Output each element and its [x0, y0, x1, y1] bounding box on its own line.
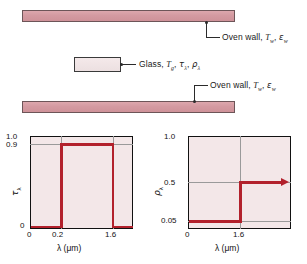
transmissivity-segment-low-right [112, 226, 133, 229]
leader-dot-bottom [193, 100, 196, 103]
transmissivity-xtick-0.2: 0.2 [52, 230, 63, 239]
transmissivity-plot-frame [30, 136, 133, 229]
transmissivity-xtick-1.6: 1.6 [105, 230, 116, 239]
leader-dot-top [205, 21, 208, 24]
oven-wall-bottom-temp-sub: w [258, 86, 262, 92]
oven-wall-top-temp-sub: w [270, 38, 274, 44]
leader-line-glass [121, 64, 136, 65]
transmissivity-xtick-0: 0 [27, 230, 31, 239]
transmissivity-faller-at-1.6 [112, 143, 115, 228]
glass-temp-sub: g [171, 65, 174, 71]
leader-line-bottom-horizontal [194, 85, 208, 86]
reflectivity-xtick-0: 0 [185, 230, 189, 239]
leader-dot-glass [120, 63, 123, 66]
glass-label-text: Glass, [139, 59, 164, 69]
reflectivity-segment-0.05 [189, 220, 242, 223]
reflectivity-xaxis-title: λ (μm) [215, 243, 239, 253]
glass-sheet [74, 57, 121, 72]
transmissivity-segment-low-left [31, 226, 62, 229]
transmissivity-yaxis-title: τλ [10, 188, 22, 196]
oven-wall-top [22, 10, 235, 22]
reflectivity-yaxis-sub: λ [158, 187, 164, 190]
transmissivity-xaxis-title: λ (μm) [57, 243, 81, 253]
oven-wall-top-emissivity-sub: w [284, 38, 288, 44]
transmissivity-ytick-0.9: 0.9 [6, 140, 17, 149]
reflectivity-ytick-0.5: 0.5 [164, 178, 175, 187]
reflectivity-yaxis-title: ρλ [152, 187, 164, 196]
glass-label: Glass, Tg, τλ, ρλ [139, 59, 200, 71]
reflectivity-arrowhead [281, 178, 289, 186]
reflectivity-segment-0.5 [239, 181, 282, 184]
oven-wall-bottom-label: Oven wall, Tw, εw [210, 80, 276, 92]
reflectivity-xtick-1.6: 1.6 [233, 230, 244, 239]
leader-line-top-vertical [206, 22, 207, 38]
glass-tau-sub: λ [184, 65, 187, 71]
transmissivity-yaxis-sub: λ [16, 188, 22, 191]
reflectivity-ytick-1.0: 1.0 [164, 132, 175, 141]
oven-wall-bottom [22, 101, 235, 113]
glass-rho-sub: λ [197, 65, 200, 71]
oven-wall-top-label: Oven wall, Tw, εw [222, 32, 288, 44]
reflectivity-yaxis-symbol: ρ [152, 190, 162, 196]
oven-wall-top-label-text: Oven wall, [222, 32, 263, 42]
transmissivity-ytick-0: 0 [20, 221, 24, 230]
oven-wall-bottom-emissivity-sub: w [272, 86, 276, 92]
leader-line-top-horizontal [206, 37, 220, 38]
reflectivity-ytick-0.05: 0.05 [161, 216, 177, 225]
figure-canvas: Oven wall, Tw, εw Glass, Tg, τλ, ρλ Oven… [0, 0, 307, 264]
transmissivity-yaxis-symbol: τ [10, 191, 20, 196]
transmissivity-riser-at-0.2 [60, 143, 63, 228]
transmissivity-plateau-0.9 [60, 143, 114, 146]
reflectivity-riser-at-1.6 [239, 181, 242, 222]
oven-wall-bottom-label-text: Oven wall, [210, 80, 251, 90]
